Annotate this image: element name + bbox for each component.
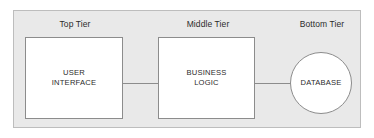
- diagram-canvas: Top Tier Middle Tier Bottom Tier USER IN…: [0, 0, 374, 138]
- connector-logic-to-database: [255, 83, 291, 84]
- node-business-logic[interactable]: BUSINESS LOGIC: [158, 37, 255, 119]
- node-database[interactable]: DATABASE: [290, 52, 352, 114]
- node-user-interface-label: USER INTERFACE: [52, 68, 96, 88]
- node-database-label: DATABASE: [301, 78, 342, 88]
- tier-label-middle: Middle Tier: [165, 19, 251, 29]
- tier-label-top: Top Tier: [32, 19, 118, 29]
- tier-label-bottom: Bottom Tier: [279, 19, 365, 29]
- connector-ui-to-logic: [123, 83, 159, 84]
- node-business-logic-label: BUSINESS LOGIC: [186, 68, 226, 88]
- node-user-interface[interactable]: USER INTERFACE: [25, 37, 123, 119]
